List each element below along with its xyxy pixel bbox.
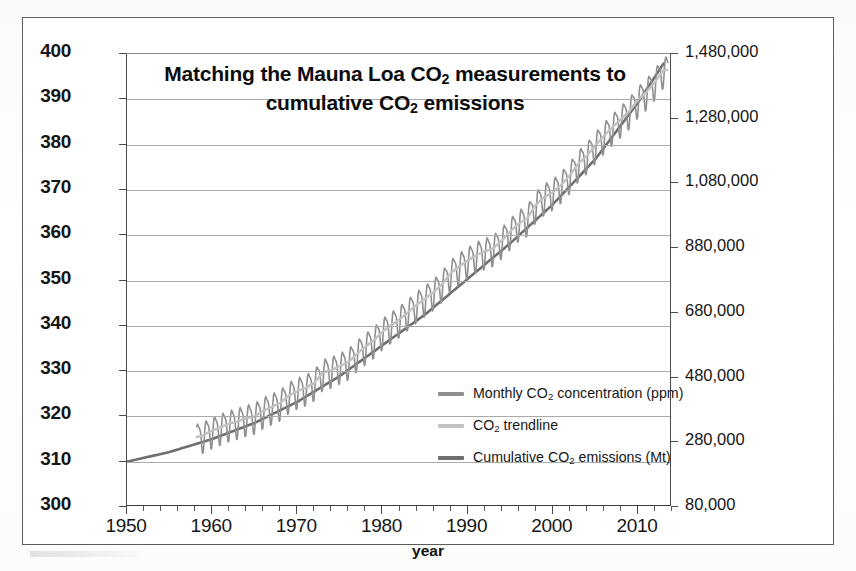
scan-artifact <box>30 551 150 557</box>
y-tick-label-right: 80,000 <box>685 495 735 514</box>
y-tick-label-left: 360 <box>40 221 71 243</box>
x-tick-label: 1990 <box>446 515 487 537</box>
chart-frame: CO2 concentration (ppmv) Cumulative CO2 … <box>22 17 834 545</box>
x-tick-major <box>211 506 212 514</box>
y-tick-left <box>119 189 126 190</box>
y-tick-label-right: 280,000 <box>685 430 745 449</box>
y-tick-label-left: 390 <box>40 85 71 107</box>
legend-swatch-icon <box>438 456 464 460</box>
y-tick-right <box>671 53 678 54</box>
x-tick-label: 1970 <box>276 515 317 537</box>
y-tick-left <box>119 144 126 145</box>
legend-label: Monthly CO2 concentration (ppm) <box>473 385 683 402</box>
y-tick-label-left: 340 <box>40 312 71 334</box>
legend-swatch-icon <box>438 392 464 396</box>
y-tick-label-right: 1,280,000 <box>685 107 758 126</box>
y-tick-left <box>119 461 126 462</box>
x-tick-label: 1950 <box>105 515 146 537</box>
y-tick-label-left: 380 <box>40 131 71 153</box>
y-tick-left <box>119 325 126 326</box>
x-tick-major <box>381 506 382 514</box>
y-tick-left <box>119 280 126 281</box>
y-tick-left <box>119 53 126 54</box>
x-tick-major <box>296 506 297 514</box>
x-tick-major <box>637 506 638 514</box>
x-tick-label: 1980 <box>361 515 402 537</box>
legend-label: CO2 trendline <box>473 417 558 434</box>
y-tick-label-left: 320 <box>40 402 71 424</box>
legend-item-cumulative-co2-emissions: Cumulative CO2 emissions (Mt) <box>438 442 673 474</box>
gridline <box>127 235 670 236</box>
y-tick-left <box>119 506 126 507</box>
y-tick-right <box>671 506 678 507</box>
legend-item-co2-trendline: CO2 trendline <box>438 410 673 442</box>
y-tick-label-right: 680,000 <box>685 301 745 320</box>
x-tick-major <box>467 506 468 514</box>
y-tick-right <box>671 247 678 248</box>
gridline <box>127 281 670 282</box>
x-tick-label: 1960 <box>191 515 232 537</box>
chart-legend: Monthly CO2 concentration (ppm)CO2 trend… <box>438 378 673 474</box>
y-tick-left <box>119 234 126 235</box>
y-tick-right <box>671 118 678 119</box>
gridline <box>127 145 670 146</box>
y-tick-right <box>671 182 678 183</box>
y-tick-label-left: 400 <box>40 40 71 62</box>
y-tick-left <box>119 415 126 416</box>
x-tick-major <box>552 506 553 514</box>
y-tick-label-right: 880,000 <box>685 236 745 255</box>
x-tick-label: 2010 <box>616 515 657 537</box>
legend-swatch-icon <box>438 424 464 428</box>
gridline <box>127 326 670 327</box>
y-tick-label-left: 350 <box>40 267 71 289</box>
chart-title: Matching the Mauna Loa CO2 measurements … <box>135 60 655 118</box>
x-tick-label: 2000 <box>531 515 572 537</box>
y-tick-right <box>671 312 678 313</box>
y-tick-label-right: 1,080,000 <box>685 171 758 190</box>
y-tick-left <box>119 370 126 371</box>
y-tick-label-right: 1,480,000 <box>685 42 758 61</box>
legend-label: Cumulative CO2 emissions (Mt) <box>473 449 671 466</box>
gridline <box>127 190 670 191</box>
y-tick-label-left: 330 <box>40 357 71 379</box>
y-tick-label-right: 480,000 <box>685 366 745 385</box>
y-tick-label-left: 370 <box>40 176 71 198</box>
y-tick-label-left: 300 <box>40 493 71 515</box>
y-tick-left <box>119 98 126 99</box>
chart-screenshot: CO2 concentration (ppmv) Cumulative CO2 … <box>0 0 856 571</box>
legend-item-monthly-co2-concentration: Monthly CO2 concentration (ppm) <box>438 378 673 410</box>
y-tick-label-left: 310 <box>40 448 71 470</box>
gridline <box>127 371 670 372</box>
x-tick-major <box>126 506 127 514</box>
